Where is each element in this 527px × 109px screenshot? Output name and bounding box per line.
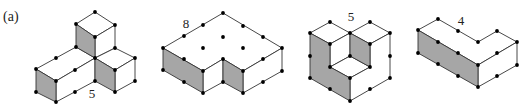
vertex-dot <box>201 91 205 95</box>
vertex-dot <box>201 23 205 27</box>
vertex-dot <box>416 51 420 55</box>
vertex-dot <box>74 22 78 26</box>
figure-2: 8 <box>161 11 284 95</box>
vertex-dot <box>308 76 312 80</box>
vertex-dot <box>73 90 77 94</box>
vertex-dot <box>221 80 225 84</box>
vertex-dot <box>388 54 392 58</box>
vertex-dot <box>476 85 480 89</box>
vertex-dot <box>348 76 352 80</box>
vertex-dot <box>161 68 165 72</box>
vertex-dot <box>348 99 352 103</box>
vertex-dot <box>241 91 245 95</box>
figure-3: 5 <box>308 9 392 103</box>
vertex-dot <box>113 46 117 50</box>
vertex-dot <box>476 63 480 67</box>
figure-count-label: 4 <box>458 13 465 28</box>
vertex-dot <box>113 23 117 27</box>
vertex-dot <box>328 20 332 24</box>
vertex-dot <box>261 35 265 39</box>
vertex-dot <box>328 65 332 69</box>
vertex-dot <box>133 79 137 83</box>
vertex-dot <box>308 31 312 35</box>
vertex-dot <box>261 57 265 61</box>
vertex-dot <box>182 80 186 84</box>
figure-count-label: 5 <box>348 9 355 24</box>
vertex-dot <box>368 20 372 24</box>
vertex-dot <box>476 40 480 44</box>
vertex-dot <box>495 74 499 78</box>
vertex-dot <box>515 40 519 44</box>
vertex-dot <box>241 46 245 50</box>
vertex-dot <box>93 35 97 39</box>
vertex-dot <box>201 69 205 73</box>
vertex-dot <box>368 42 372 46</box>
vertex-dot <box>113 68 117 72</box>
polycube-diagram: (a) 5854 <box>0 0 527 109</box>
vertex-dot <box>328 42 332 46</box>
vertex-dot <box>416 28 420 32</box>
vertex-dot <box>161 46 165 50</box>
vertex-dot <box>495 29 499 33</box>
vertex-dot <box>221 57 225 61</box>
vertex-dot <box>388 31 392 35</box>
vertex-dot <box>515 63 519 67</box>
vertex-dot <box>74 45 78 49</box>
vertex-dot <box>34 90 38 94</box>
vertex-dot <box>113 90 117 94</box>
vertex-dot <box>241 24 245 28</box>
vertex-dot <box>201 46 205 50</box>
vertex-dot <box>308 54 312 58</box>
vertex-dot <box>280 46 284 50</box>
vertex-dot <box>133 56 137 60</box>
vertex-dot <box>280 69 284 73</box>
panel-label: (a) <box>3 9 19 25</box>
vertex-dot <box>182 34 186 38</box>
vertex-dot <box>368 65 372 69</box>
vertex-dot <box>261 80 265 84</box>
figures-group: 5854 <box>34 9 519 104</box>
vertex-dot <box>182 57 186 61</box>
vertex-dot <box>436 17 440 21</box>
vertex-dot <box>328 87 332 91</box>
vertex-dot <box>241 69 245 73</box>
vertex-dot <box>456 74 460 78</box>
vertex-dot <box>93 10 97 14</box>
vertex-dot <box>368 87 372 91</box>
figure-count-label: 8 <box>183 16 190 31</box>
vertex-dot <box>436 40 440 44</box>
vertex-dot <box>54 56 58 60</box>
vertex-dot <box>388 76 392 80</box>
vertex-dot <box>456 51 460 55</box>
vertex-dot <box>93 79 97 83</box>
figure-1: 5 <box>34 10 137 104</box>
vertex-dot <box>93 56 97 60</box>
vertex-dot <box>456 29 460 33</box>
vertex-dot <box>436 62 440 66</box>
vertex-dot <box>221 11 225 15</box>
vertex-dot <box>348 54 352 58</box>
vertex-dot <box>495 51 499 55</box>
vertex-dot <box>221 35 225 39</box>
vertex-dot <box>54 100 58 104</box>
vertex-dot <box>54 79 58 83</box>
vertex-dot <box>34 67 38 71</box>
vertex-dot <box>348 31 352 35</box>
vertex-dot <box>73 68 77 72</box>
figure-4: 4 <box>416 13 519 89</box>
figure-count-label: 5 <box>89 86 96 101</box>
